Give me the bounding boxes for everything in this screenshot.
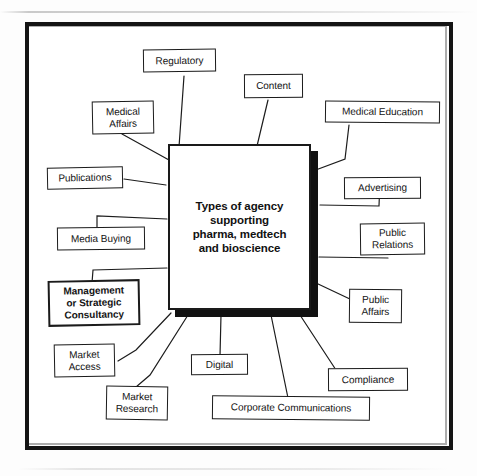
node-publications[interactable]: Publications [47, 166, 123, 189]
node-corporate-communications[interactable]: Corporate Communications [212, 395, 370, 421]
node-label: Regulatory [155, 54, 203, 67]
node-label: Compliance [342, 373, 394, 385]
node-label: Advertising [358, 182, 407, 194]
node-label: Management or Strategic Consultancy [63, 284, 124, 321]
scan-artifact-bottom [18, 468, 448, 470]
node-medical-affairs[interactable]: Medical Affairs [92, 100, 155, 134]
node-label: Market Access [68, 348, 100, 373]
node-label: Public Relations [372, 227, 414, 252]
node-market-access[interactable]: Market Access [54, 343, 116, 377]
node-public-affairs[interactable]: Public Affairs [349, 289, 402, 324]
node-advertising[interactable]: Advertising [344, 177, 421, 200]
node-label: Publications [58, 171, 112, 184]
node-management-consultancy[interactable]: Management or Strategic Consultancy [48, 279, 141, 327]
node-market-research[interactable]: Market Research [106, 386, 169, 421]
node-regulatory[interactable]: Regulatory [143, 49, 216, 73]
node-label: Media Buying [71, 232, 131, 245]
node-label: Content [256, 80, 291, 92]
node-public-relations[interactable]: Public Relations [360, 223, 425, 256]
node-digital[interactable]: Digital [191, 354, 248, 375]
hub-label: Types of agency supporting pharma, medte… [189, 199, 291, 255]
node-content[interactable]: Content [244, 74, 303, 98]
node-compliance[interactable]: Compliance [328, 368, 408, 392]
hub-box: Types of agency supporting pharma, medte… [168, 144, 311, 310]
node-label: Medical Affairs [106, 105, 141, 130]
node-media-buying[interactable]: Media Buying [57, 226, 145, 250]
node-label: Corporate Communications [231, 401, 352, 414]
scan-artifact-top [0, 11, 477, 13]
node-label: Digital [206, 358, 234, 370]
node-label: Public Affairs [361, 294, 389, 318]
diagram-page: Types of agency supporting pharma, medte… [0, 0, 477, 476]
node-label: Market Research [116, 391, 159, 416]
node-label: Medical Education [342, 106, 423, 119]
node-medical-education[interactable]: Medical Education [325, 100, 440, 123]
